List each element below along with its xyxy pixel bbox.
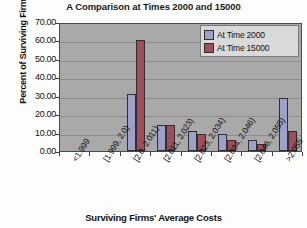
y-tick-label: 10.00 [0,128,56,138]
legend-entry-0: At Time 2000 [204,28,295,41]
x-tick-mark [120,152,121,156]
x-axis-title: Surviving Firms' Average Costs [0,212,307,223]
chart-title: A Comparison at Times 2000 and 15000 [0,1,307,12]
bar-group [60,24,90,151]
legend-label: At Time 15000 [217,43,269,53]
y-tick-label: 70.00 [0,17,56,27]
bar [136,40,145,151]
y-tick-label: 20.00 [0,109,56,119]
legend-entry-1: At Time 15000 [204,41,295,54]
y-tick-label: 60.00 [0,35,56,45]
x-tick-mark [302,152,303,156]
x-tick-mark [89,152,90,156]
bar-chart: A Comparison at Times 2000 and 15000 Per… [0,0,307,228]
bar [127,94,136,151]
x-tick-mark [150,152,151,156]
legend-label: At Time 2000 [217,30,265,40]
x-tick-mark [241,152,242,156]
x-tick-mark [181,152,182,156]
x-tick-mark [59,152,60,156]
x-tick-mark [272,152,273,156]
bar [188,131,197,151]
y-tick-label: 0.00 [0,146,56,156]
bar [218,134,227,151]
y-tick-label: 30.00 [0,91,56,101]
legend-swatch-icon [204,43,214,53]
legend: At Time 2000 At Time 15000 [200,25,299,57]
x-tick-mark [211,152,212,156]
y-tick-label: 50.00 [0,54,56,64]
y-tick-label: 40.00 [0,72,56,82]
legend-swatch-icon [204,30,214,40]
